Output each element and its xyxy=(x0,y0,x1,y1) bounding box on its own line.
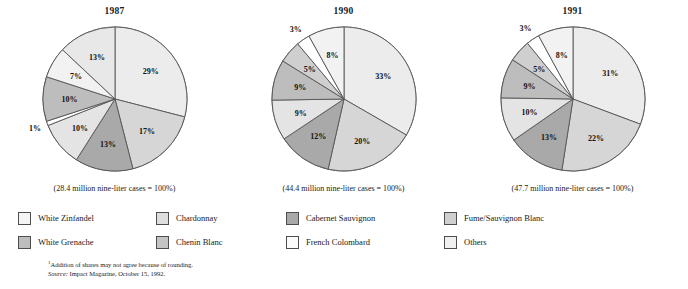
pie-slice-label: 9% xyxy=(523,82,535,91)
pie-slice-label: 13% xyxy=(99,140,115,149)
pie-slice-label: 10% xyxy=(521,108,537,117)
pie-slice-label: 13% xyxy=(540,133,556,142)
legend-label: Chardonnay xyxy=(176,213,218,223)
legend-swatch xyxy=(286,236,299,249)
pie-slice-label: 33% xyxy=(375,72,391,81)
pie-slice-label: 22% xyxy=(587,134,603,143)
legend-label: White Grenache xyxy=(38,237,93,247)
source-label: Source: xyxy=(48,270,68,277)
legend-label: Fume/Sauvignon Blanc xyxy=(464,213,544,223)
pie-chart-1990: 33%20%12%9%9%5%3%8% xyxy=(229,19,458,181)
chart-caption: (44.4 million nine-liter cases = 100%) xyxy=(229,181,458,194)
chart-title: 1991 xyxy=(458,0,687,19)
chart-panel-1987: 1987 29%17%13%10%1%10%7%13% (28.4 millio… xyxy=(0,0,229,200)
pie-chart-1991: 31%22%13%10%9%5%3%8% xyxy=(458,19,687,181)
legend-swatch xyxy=(444,212,457,225)
pie-charts-row: 1987 29%17%13%10%1%10%7%13% (28.4 millio… xyxy=(0,0,688,200)
pie-slice-label: 7% xyxy=(70,72,82,81)
pie-slice-label: 5% xyxy=(303,65,315,74)
legend-item[interactable]: French Colombard xyxy=(286,234,370,250)
legend-item[interactable]: Cabernet Sauvignon xyxy=(286,210,375,226)
chart-panel-1991: 1991 31%22%13%10%9%5%3%8% (47.7 million … xyxy=(458,0,687,200)
footnote-rounding-text: Addition of shares may not agree because… xyxy=(51,261,193,268)
pie-slice-label: 9% xyxy=(294,83,306,92)
pie-slice-label: 10% xyxy=(61,95,77,104)
legend-swatch xyxy=(286,212,299,225)
legend-swatch xyxy=(444,236,457,249)
pie-slice-label: 3% xyxy=(289,25,301,34)
legend-item[interactable]: Chardonnay xyxy=(156,210,218,226)
pie-slice-label: 17% xyxy=(139,127,155,136)
legend-item[interactable]: Fume/Sauvignon Blanc xyxy=(444,210,544,226)
legend-swatch xyxy=(156,212,169,225)
pie-slice-label: 20% xyxy=(354,137,370,146)
source-text: Impact Magazine, October 15, 1992. xyxy=(70,270,165,277)
chart-legend: White ZinfandelChardonnayCabernet Sauvig… xyxy=(14,210,674,254)
legend-label: French Colombard xyxy=(306,237,370,247)
pie-slice-label: 13% xyxy=(89,53,105,62)
legend-label: Chenin Blanc xyxy=(176,237,223,247)
pie-slice-label: 10% xyxy=(72,124,88,133)
pie-slice-label: 31% xyxy=(602,69,618,78)
pie-chart-1987: 29%17%13%10%1%10%7%13% xyxy=(0,19,229,181)
legend-item[interactable]: Others xyxy=(444,234,487,250)
footnote-source: Source: Impact Magazine, October 15, 199… xyxy=(48,270,193,279)
chart-caption: (28.4 million nine-liter cases = 100%) xyxy=(0,181,229,194)
chart-panel-1990: 1990 33%20%12%9%9%5%3%8% (44.4 million n… xyxy=(229,0,458,200)
footnotes: 1Addition of shares may not agree becaus… xyxy=(48,259,193,278)
chart-title: 1990 xyxy=(229,0,458,19)
chart-title: 1987 xyxy=(0,0,229,19)
legend-item[interactable]: White Grenache xyxy=(18,234,93,250)
legend-label: White Zinfandel xyxy=(38,213,94,223)
legend-swatch xyxy=(156,236,169,249)
pie-svg: 33%20%12%9%9%5%3%8% xyxy=(254,19,434,179)
pie-slice-label: 12% xyxy=(310,132,326,141)
pie-slice-label: 8% xyxy=(555,51,567,60)
chart-caption: (47.7 million nine-liter cases = 100%) xyxy=(458,181,687,194)
legend-label: Others xyxy=(464,237,487,247)
pie-svg: 31%22%13%10%9%5%3%8% xyxy=(483,19,663,179)
legend-swatch xyxy=(18,212,31,225)
pie-slice-label: 5% xyxy=(533,65,545,74)
footnote-rounding: 1Addition of shares may not agree becaus… xyxy=(48,259,193,270)
legend-label: Cabernet Sauvignon xyxy=(306,213,375,223)
pie-slice-label: 8% xyxy=(326,51,338,60)
pie-svg: 29%17%13%10%1%10%7%13% xyxy=(25,19,205,179)
pie-slice-label: 9% xyxy=(294,109,306,118)
pie-slice-label: 29% xyxy=(142,67,158,76)
legend-item[interactable]: White Zinfandel xyxy=(18,210,94,226)
pie-slice-label: 1% xyxy=(29,124,41,133)
pie-slice-label: 3% xyxy=(519,24,531,33)
legend-swatch xyxy=(18,236,31,249)
legend-item[interactable]: Chenin Blanc xyxy=(156,234,223,250)
